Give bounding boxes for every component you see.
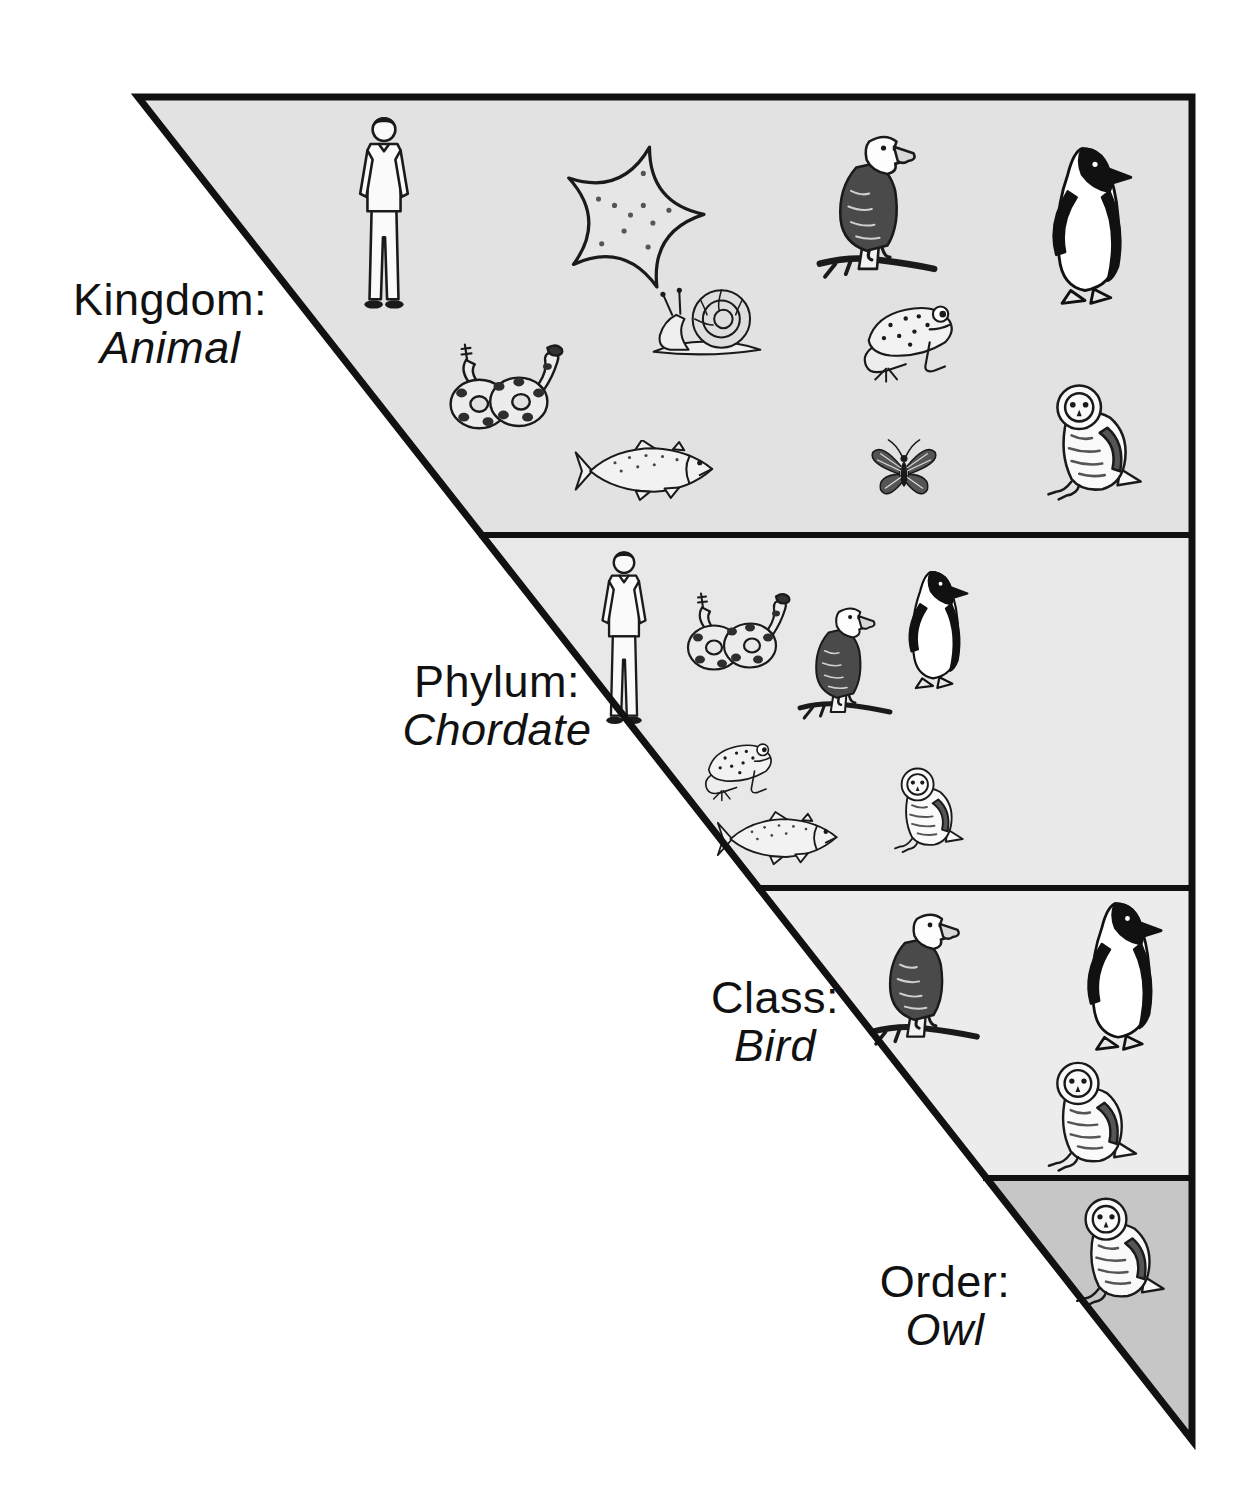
class-label: Class: Bird	[655, 974, 895, 1069]
order-taxon: Owl	[825, 1306, 1065, 1354]
kingdom-taxon: Animal	[40, 324, 300, 372]
classification-figure: Kingdom: Animal Phylum: Chordate Class: …	[0, 0, 1259, 1500]
kingdom-label: Kingdom: Animal	[40, 276, 300, 371]
class-taxon: Bird	[655, 1022, 895, 1070]
classification-diagram	[0, 0, 1259, 1500]
class-rank: Class:	[655, 974, 895, 1022]
phylum-rank: Phylum:	[377, 658, 617, 706]
order-label: Order: Owl	[825, 1258, 1065, 1353]
order-rank: Order:	[825, 1258, 1065, 1306]
phylum-taxon: Chordate	[377, 706, 617, 754]
kingdom-rank: Kingdom:	[40, 276, 300, 324]
phylum-label: Phylum: Chordate	[377, 658, 617, 753]
